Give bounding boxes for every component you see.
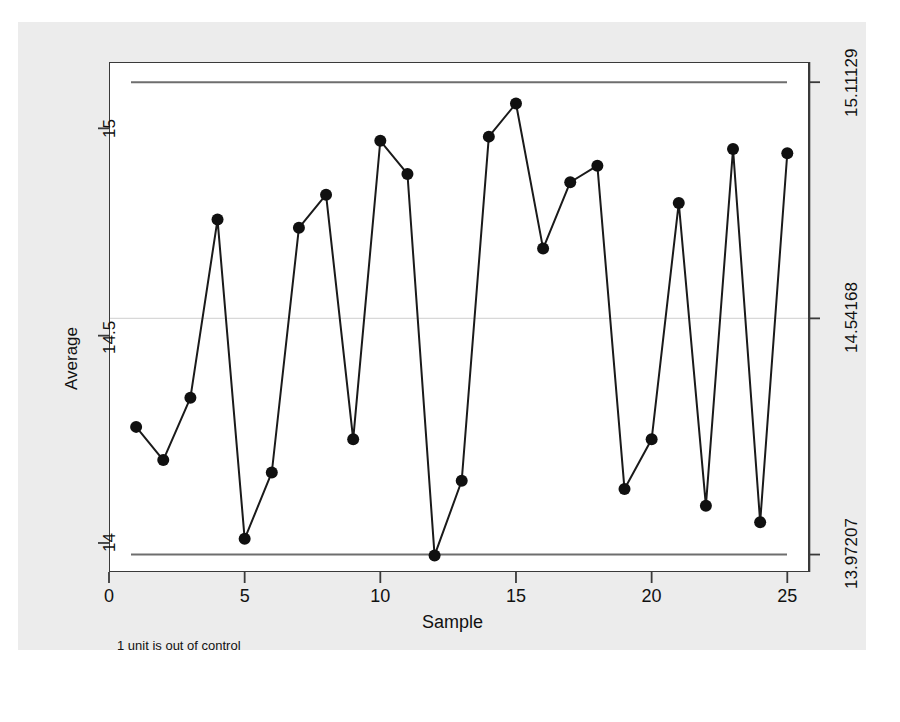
plot-area [109, 62, 809, 572]
y-axis-left-tick-label: 15 [100, 119, 120, 138]
x-axis-tick-label: 15 [496, 586, 536, 607]
x-axis-tick-label: 25 [767, 586, 807, 607]
y-axis-right-tick-label: 15.11129 [842, 48, 862, 116]
control-chart-figure: Average 1514.514 15.1112914.5416813.9720… [0, 0, 900, 722]
x-axis-tick-label: 10 [360, 586, 400, 607]
y-axis-right-tick-label: 13.97207 [842, 518, 862, 589]
out-of-control-note: 1 unit is out of control [117, 638, 241, 653]
y-axis-left-tick-label: 14.5 [100, 321, 120, 354]
x-axis-tick-label: 20 [632, 586, 672, 607]
x-axis-tick-label: 5 [225, 586, 265, 607]
x-axis-tick-label: 0 [89, 586, 129, 607]
y-axis-title: Average [62, 327, 82, 390]
y-axis-right-tick-label: 14.54168 [842, 282, 862, 353]
x-axis-title: Sample [422, 612, 483, 633]
y-axis-left-tick-label: 14 [100, 533, 120, 552]
